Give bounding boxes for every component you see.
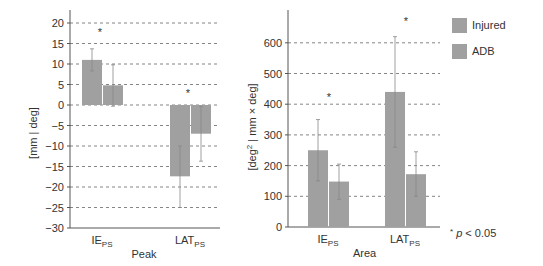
significance-star: * <box>404 15 409 27</box>
y-tick-label: 5 <box>58 79 64 91</box>
y-tick-label: 10 <box>52 58 64 70</box>
x-axis-label: Peak <box>131 248 157 260</box>
y-tick-label: 15 <box>52 38 64 50</box>
y-tick-label: 400 <box>264 98 282 110</box>
y-tick-label: 300 <box>264 129 282 141</box>
legend-swatch-adb <box>452 44 467 59</box>
y-tick-label: −25 <box>45 202 64 214</box>
significance-star: * <box>186 87 191 99</box>
y-tick-label: 0 <box>58 99 64 111</box>
significance-star: * <box>98 26 103 38</box>
y-tick-label: 0 <box>276 221 282 233</box>
legend-item-adb: ADB <box>452 38 506 64</box>
y-tick-label: 600 <box>264 37 282 49</box>
y-tick-label: 20 <box>52 17 64 29</box>
legend: Injured ADB <box>452 12 506 64</box>
y-tick-label: −5 <box>51 120 64 132</box>
y-tick-label: −15 <box>45 161 64 173</box>
legend-swatch-injured <box>452 18 467 33</box>
y-tick-label: −20 <box>45 181 64 193</box>
legend-label-injured: Injured <box>472 19 506 31</box>
y-tick-label: 100 <box>264 190 282 202</box>
legend-label-adb: ADB <box>472 45 495 57</box>
significance-star: * <box>327 91 332 103</box>
x-axis-label: Area <box>353 247 377 259</box>
y-tick-label: 500 <box>264 68 282 80</box>
footnote-star: * <box>450 227 453 236</box>
significance-footnote: * p < 0.05 <box>450 227 496 239</box>
y-axis-label-peak: [mm | deg] <box>27 107 39 159</box>
y-tick-label: 200 <box>264 160 282 172</box>
legend-item-injured: Injured <box>452 12 506 38</box>
y-tick-label: −10 <box>45 140 64 152</box>
y-axis-label-area: [deg2 | mm × deg] <box>245 83 258 170</box>
x-category-label: IEPS <box>317 233 338 248</box>
x-category-label: LATPS <box>390 233 420 248</box>
y-tick-label: −30 <box>45 222 64 234</box>
footnote-text: < 0.05 <box>462 227 496 239</box>
x-category-label: LATPS <box>175 234 205 249</box>
x-category-label: IEPS <box>91 234 112 249</box>
